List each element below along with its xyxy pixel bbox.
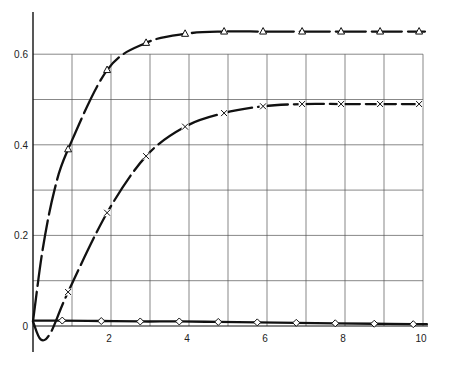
diamond-curve xyxy=(33,321,427,325)
data-curves xyxy=(33,31,427,340)
diamond-marker xyxy=(254,319,261,326)
diamond-marker xyxy=(215,318,222,325)
y-tick-label: 0.6 xyxy=(14,49,28,60)
y-tick-label: 0.4 xyxy=(14,140,28,151)
x-tick-label: 6 xyxy=(262,333,268,344)
x-tick-label: 10 xyxy=(415,333,427,344)
x-tick-label: 4 xyxy=(184,333,190,344)
diamond-marker xyxy=(59,317,66,324)
cross-curve xyxy=(33,104,419,341)
diamond-marker xyxy=(410,321,417,328)
x-tick-label: 8 xyxy=(340,333,346,344)
x-tick-labels: 246810 xyxy=(106,333,427,344)
x-tick-label: 2 xyxy=(106,333,112,344)
y-tick-labels: 00.20.40.6 xyxy=(14,49,28,332)
data-markers xyxy=(59,28,423,328)
diamond-marker xyxy=(98,318,105,325)
diamond-marker xyxy=(176,318,183,325)
line-chart: 00.20.40.6 246810 xyxy=(0,0,451,367)
diamond-marker xyxy=(293,319,300,326)
y-tick-label: 0 xyxy=(22,321,28,332)
triangle-curve xyxy=(33,31,425,321)
y-tick-label: 0.2 xyxy=(14,230,28,241)
diamond-marker xyxy=(137,318,144,325)
axes xyxy=(33,12,428,352)
